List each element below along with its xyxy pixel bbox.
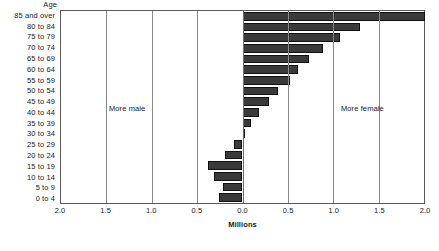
y-axis-tick-label: 5 to 9 <box>0 183 57 194</box>
annotation-more-male: More male <box>109 104 145 113</box>
x-axis-tick-label: 1.5 <box>374 206 385 216</box>
y-axis-tick-label: 45 to 49 <box>0 96 57 107</box>
bar[interactable] <box>243 23 360 32</box>
bar[interactable] <box>225 151 242 160</box>
y-axis-tick-label: 50 to 54 <box>0 85 57 96</box>
bar[interactable] <box>243 108 259 117</box>
bar[interactable] <box>243 44 324 53</box>
y-axis-tick-label: 15 to 19 <box>0 161 57 172</box>
bar[interactable] <box>234 140 242 149</box>
x-axis-tick-label: 0.0 <box>237 206 248 216</box>
y-axis-tick-label: 25 to 29 <box>0 139 57 150</box>
bar[interactable] <box>243 33 340 42</box>
zero-line <box>243 11 244 203</box>
bar[interactable] <box>243 55 309 64</box>
x-axis-tick-labels: 2.01.51.00.50.00.51.01.52.0 <box>60 206 425 218</box>
y-axis-tick-label: 70 to 74 <box>0 42 57 53</box>
gridline <box>288 11 289 203</box>
y-axis-tick-label: 80 to 84 <box>0 21 57 32</box>
x-axis-title: Millions <box>60 220 425 229</box>
y-axis-tick-label: 40 to 44 <box>0 107 57 118</box>
y-axis-tick-label: 0 to 4 <box>0 193 57 204</box>
y-axis-title: Age <box>0 1 57 9</box>
y-axis-tick-label: 85 and over <box>0 10 57 21</box>
y-axis-tick-label: 75 to 79 <box>0 32 57 43</box>
y-axis-tick-labels: 85 and over80 to 8475 to 7970 to 7465 to… <box>0 10 57 204</box>
bar[interactable] <box>243 87 278 96</box>
bar[interactable] <box>243 119 251 128</box>
x-axis-tick-label: 1.0 <box>146 206 157 216</box>
bar[interactable] <box>243 76 290 85</box>
bar[interactable] <box>243 65 298 74</box>
annotation-more-female: More female <box>341 104 384 113</box>
bar[interactable] <box>243 97 269 106</box>
gridline <box>333 11 334 203</box>
y-axis-tick-label: 10 to 14 <box>0 172 57 183</box>
x-axis-tick-label: 1.0 <box>328 206 339 216</box>
y-axis-tick-label: 30 to 34 <box>0 129 57 140</box>
bar[interactable] <box>208 161 242 170</box>
bar[interactable] <box>219 193 243 202</box>
gridline <box>106 11 107 203</box>
y-axis-tick-label: 20 to 24 <box>0 150 57 161</box>
y-axis-tick-label: 35 to 39 <box>0 118 57 129</box>
population-difference-chart-figure: Age 85 and over80 to 8475 to 7970 to 746… <box>0 0 439 251</box>
x-axis-tick-label: 1.5 <box>100 206 111 216</box>
x-axis-tick-label: 0.5 <box>192 206 203 216</box>
y-axis-tick-label: 55 to 59 <box>0 75 57 86</box>
y-axis-tick-label: 65 to 69 <box>0 53 57 64</box>
x-axis-tick-label: 2.0 <box>55 206 66 216</box>
x-axis-tick-label: 2.0 <box>420 206 431 216</box>
y-axis-tick-label: 60 to 64 <box>0 64 57 75</box>
bar[interactable] <box>223 183 243 192</box>
bar[interactable] <box>214 172 242 181</box>
gridline <box>152 11 153 203</box>
gridline <box>197 11 198 203</box>
x-axis-tick-label: 0.5 <box>283 206 294 216</box>
